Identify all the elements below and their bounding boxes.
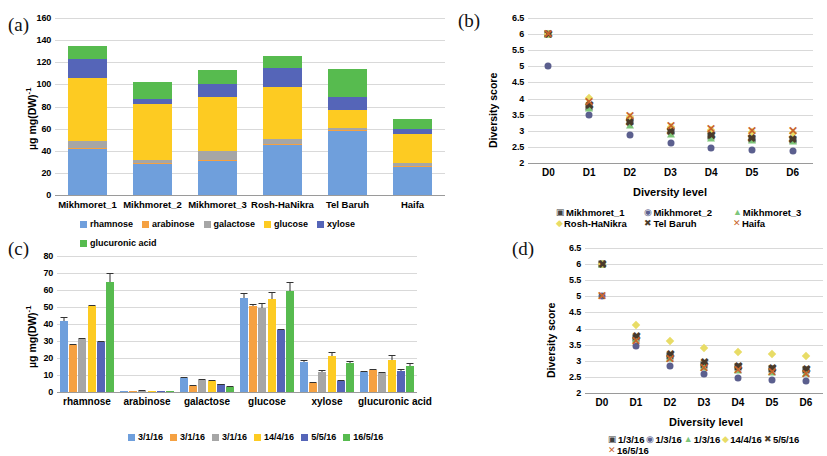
- error-bar: [88, 305, 96, 306]
- legend-swatch: [128, 434, 135, 441]
- legend-label: 1/3/16: [655, 434, 681, 445]
- error-bar: [388, 355, 396, 360]
- axis-baseline: [55, 195, 445, 196]
- error-bar: [198, 379, 206, 380]
- x-axis-tick: D3: [698, 397, 711, 408]
- stacked-bar: [263, 56, 302, 195]
- stacked-bar: [198, 70, 237, 195]
- error-bar-cap: [199, 379, 206, 380]
- scatter-marker-diamond: [734, 348, 742, 356]
- x-axis-tick: Mikhmoret_1: [58, 199, 117, 210]
- bar-segment-glucose: [263, 87, 302, 139]
- panel-a-plot: 020406080100120140160Mikhmoret_1Mikhmore…: [55, 18, 445, 195]
- y-axis-tick: 2.5: [512, 142, 524, 152]
- scatter-marker-x-thin: ✕: [747, 125, 757, 137]
- panel-d-tag: (d): [512, 238, 534, 260]
- error-bar: [277, 329, 285, 330]
- y-axis-tick: 3.5: [569, 340, 581, 350]
- error-bar: [78, 338, 86, 339]
- scatter-marker-circle: [748, 146, 755, 153]
- gridline: [57, 256, 417, 257]
- error-bar-cap: [139, 390, 146, 391]
- gridline: [528, 34, 813, 35]
- panel-a-ylabel-sup: -1: [24, 88, 33, 95]
- panel-b-xlabel: Diversity level: [633, 186, 707, 198]
- legend-swatch-glucuronic-acid: [80, 240, 87, 247]
- x-axis-tick: D1: [630, 397, 643, 408]
- grouped-bar: [198, 380, 206, 392]
- error-bar-cap: [60, 317, 67, 318]
- bar-segment-galactose: [263, 139, 302, 144]
- legend-label: xylose: [327, 219, 355, 229]
- y-axis-tick: 50: [43, 302, 53, 312]
- legend-item: ▲Mikhmoret_3: [733, 207, 821, 218]
- y-axis-tick: 160: [37, 13, 51, 23]
- gridline: [55, 40, 445, 41]
- panel-c-ylabel-sup: -1: [24, 306, 33, 313]
- x-axis-tick: D1: [583, 167, 596, 178]
- scatter-marker-diamond: [768, 350, 776, 358]
- legend-label: rhamnose: [90, 219, 133, 229]
- gridline: [528, 50, 813, 51]
- bar-segment-xylose: [328, 97, 367, 110]
- error-bar: [378, 372, 386, 373]
- grouped-bar: [369, 370, 377, 392]
- legend-swatch-arabinose: [142, 221, 149, 228]
- error-bar-cap: [190, 385, 197, 386]
- y-axis-tick: 100: [37, 79, 51, 89]
- gridline: [55, 151, 445, 152]
- bar-segment-arabinose: [328, 130, 367, 131]
- legend-swatch: [170, 434, 177, 441]
- bar-segment-rhamnose: [393, 166, 432, 195]
- x-axis-tick: D0: [596, 397, 609, 408]
- legend-item: ◉1/3/16: [646, 434, 681, 445]
- error-bar: [208, 380, 216, 381]
- panel-a-ylabel-text: µg mg(DW): [26, 94, 38, 150]
- y-axis-tick: 5.5: [569, 275, 581, 285]
- panel-b-plot: 22.533.544.555.566.5D0D1D2D3D4D5D6✖✖✖✖✖✖…: [528, 18, 813, 163]
- grouped-bar: [69, 345, 77, 392]
- legend-marker-circle: ◉: [644, 208, 652, 217]
- y-axis-tick: 40: [41, 146, 51, 156]
- gridline: [55, 18, 445, 19]
- panel-d-ylabel: Diversity score: [545, 303, 557, 378]
- panel-c-ylabel: µg mg(DW)-1: [24, 306, 38, 368]
- bar-segment-xylose: [198, 84, 237, 96]
- x-axis-tick: D5: [766, 397, 779, 408]
- stacked-bar: [133, 82, 172, 195]
- error-bar-line: [290, 282, 291, 291]
- error-bar-cap: [79, 338, 86, 339]
- x-axis-tick: Haifa: [401, 199, 424, 210]
- bar-segment-xylose: [68, 59, 107, 78]
- legend-label: Haifa: [742, 218, 765, 229]
- grouped-bar: [309, 383, 317, 392]
- x-axis-tick: glucuronic acid: [358, 396, 416, 407]
- legend-marker-x-bold: ✖: [764, 435, 772, 444]
- legend-label: 1/3/16: [694, 434, 720, 445]
- legend-item: glucose: [264, 219, 308, 229]
- legend-label: Mikhmoret_1: [566, 207, 625, 218]
- legend-item: 16/5/16: [343, 432, 383, 442]
- scatter-marker-circle: [586, 112, 593, 119]
- legend-marker-x-thin: ✕: [733, 219, 741, 228]
- error-bar-cap: [379, 372, 386, 373]
- scatter-marker-x-thin: ✕: [584, 96, 594, 108]
- gridline: [528, 147, 813, 148]
- legend-item: ◆Rosh-HaNikra: [556, 218, 644, 229]
- scatter-marker-x-thin: ✕: [625, 110, 635, 122]
- bar-segment-rhamnose: [133, 164, 172, 195]
- bar-segment-xylose: [263, 68, 302, 87]
- gridline: [55, 173, 445, 174]
- grouped-bar: [97, 342, 105, 392]
- legend-label: 3/1/16: [180, 432, 205, 442]
- axis-baseline: [585, 393, 823, 394]
- scatter-marker-x-thin: ✕: [543, 28, 553, 40]
- legend-label: 16/5/16: [617, 445, 649, 456]
- gridline: [585, 280, 823, 281]
- x-axis-tick: D2: [623, 167, 636, 178]
- bar-segment-arabinose: [133, 163, 172, 164]
- grouped-bar: [157, 391, 165, 392]
- gridline: [585, 312, 823, 313]
- stacked-bar: [393, 119, 432, 195]
- scatter-marker-x-thin: ✕: [631, 335, 641, 347]
